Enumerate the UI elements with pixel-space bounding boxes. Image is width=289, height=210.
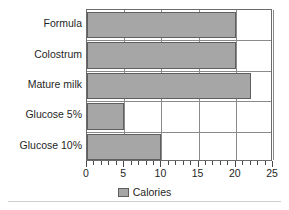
x-tick-minor xyxy=(183,161,184,165)
category-label: Glucose 10% xyxy=(2,140,82,151)
x-tick-label: 15 xyxy=(183,167,213,179)
x-tick-minor xyxy=(153,161,154,165)
category-axis-labels: Formula Colostrum Mature milk Glucose 5%… xyxy=(0,9,82,161)
bar-band xyxy=(87,40,271,70)
x-tick-minor xyxy=(250,161,251,165)
plot-area xyxy=(86,9,272,161)
bar-band xyxy=(87,10,271,40)
x-tick-label: 10 xyxy=(145,167,175,179)
x-tick-minor xyxy=(190,161,191,165)
bar-band xyxy=(87,71,271,101)
x-tick-label: 25 xyxy=(257,167,287,179)
x-tick-minor xyxy=(108,161,109,165)
x-tick-minor xyxy=(242,161,243,165)
category-label: Glucose 5% xyxy=(2,109,82,120)
x-tick-minor xyxy=(146,161,147,165)
footer-rule xyxy=(8,201,281,202)
x-tick-minor xyxy=(212,161,213,165)
x-tick-minor xyxy=(138,161,139,165)
category-label: Mature milk xyxy=(2,79,82,90)
x-tick-label: 5 xyxy=(108,167,138,179)
x-tick-minor xyxy=(175,161,176,165)
x-tick-label: 20 xyxy=(220,167,250,179)
x-tick-minor xyxy=(220,161,221,165)
bar xyxy=(87,12,236,38)
x-tick-minor xyxy=(257,161,258,165)
x-tick-minor xyxy=(101,161,102,165)
category-label: Formula xyxy=(2,18,82,29)
bar-chart-figure: Formula Colostrum Mature milk Glucose 5%… xyxy=(0,0,289,210)
bar xyxy=(87,134,161,160)
category-label: Colostrum xyxy=(2,49,82,60)
legend-label-calories: Calories xyxy=(133,186,172,198)
x-tick-minor xyxy=(93,161,94,165)
x-tick-minor xyxy=(168,161,169,165)
bar-band xyxy=(87,132,271,162)
x-axis-tick-labels: 0510152025 xyxy=(0,167,289,181)
bar xyxy=(87,103,124,129)
x-tick-minor xyxy=(116,161,117,165)
bar xyxy=(87,73,251,99)
gridline xyxy=(273,10,274,160)
x-tick-minor xyxy=(205,161,206,165)
legend-swatch-calories xyxy=(118,188,129,197)
bar-band xyxy=(87,101,271,131)
x-tick-minor xyxy=(131,161,132,165)
x-tick-label: 0 xyxy=(71,167,101,179)
bar xyxy=(87,42,236,68)
chart-legend: Calories xyxy=(0,186,289,198)
x-tick-minor xyxy=(227,161,228,165)
x-tick-minor xyxy=(265,161,266,165)
